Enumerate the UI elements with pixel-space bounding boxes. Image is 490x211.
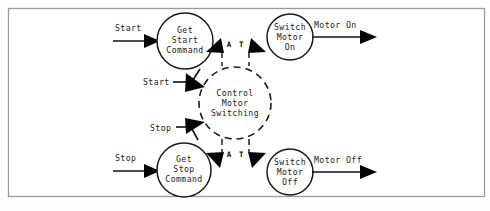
flow-start-ctl-label: Start xyxy=(143,77,170,87)
process-get-stop-command-line2: Stop xyxy=(173,164,194,174)
flow-motor-on-label: Motor On xyxy=(314,20,357,30)
process-get-start-command-line2: Start xyxy=(172,35,199,45)
process-get-start-command-line1: Get xyxy=(177,25,193,35)
process-control-motor-switching-line1: Control xyxy=(216,88,253,98)
process-get-stop-command-line3: Command xyxy=(165,174,202,184)
flow-stop-ctl-label: Stop xyxy=(150,123,171,133)
process-switch-motor-off-line1: Switch xyxy=(274,157,306,167)
process-get-start-command: Get Start Command xyxy=(157,13,213,69)
diagram-screenshot: Start Stop Get Start Command Get Stop Co… xyxy=(0,0,490,211)
flow-motor-off-label: Motor Off xyxy=(314,155,362,165)
process-switch-motor-on: Switch Motor On xyxy=(267,14,313,60)
process-get-stop-command-line1: Get xyxy=(176,154,192,164)
process-control-motor-switching: Control Motor Switching xyxy=(199,67,271,139)
process-switch-motor-on-line2: Motor xyxy=(277,32,304,42)
control-flow-top-label: A T xyxy=(227,40,245,49)
process-switch-motor-off-line2: Motor xyxy=(277,167,304,177)
process-switch-motor-on-line3: On xyxy=(285,42,296,52)
flow-stop-in-label: Stop xyxy=(115,153,136,163)
process-switch-motor-off-line3: Off xyxy=(282,177,298,187)
process-get-start-command-line3: Command xyxy=(166,45,203,55)
process-switch-motor-off: Switch Motor Off xyxy=(267,149,313,195)
control-flow-bottom-label: A T xyxy=(227,150,245,159)
process-control-motor-switching-line2: Motor xyxy=(222,98,249,108)
process-switch-motor-on-line1: Switch xyxy=(274,22,306,32)
data-flow-diagram: Start Stop Get Start Command Get Stop Co… xyxy=(0,0,490,211)
flow-start-in-label: Start xyxy=(115,23,142,33)
process-get-stop-command: Get Stop Command xyxy=(157,143,211,197)
process-control-motor-switching-line3: Switching xyxy=(211,108,259,118)
